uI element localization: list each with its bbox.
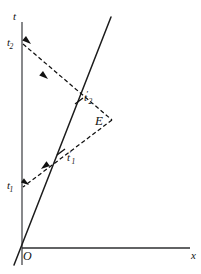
point-label-t1-sub: 1: [10, 185, 14, 194]
space-axis-label: x: [191, 250, 196, 261]
spacetime-diagram: t x O t2 t1 t′2 t′1 E: [0, 0, 201, 274]
point-label-t2: t2: [7, 37, 14, 48]
moving-frame-worldline: [14, 17, 111, 265]
point-label-t2-prime-sub: 2: [89, 97, 93, 106]
outgoing-light-ray: [23, 44, 112, 120]
point-label-t1-prime: t′1: [67, 152, 76, 163]
event-label-E: E: [95, 114, 103, 127]
point-label-t2-sub: 2: [10, 42, 14, 51]
point-label-t2-prime: t′2: [84, 92, 93, 103]
point-label-t1: t1: [7, 180, 14, 191]
origin-label: O: [23, 250, 32, 262]
time-axis-label: t: [13, 11, 16, 22]
arrow-mid-lower-ray-icon: [39, 161, 50, 171]
point-label-t1-prime-sub: 1: [72, 157, 76, 166]
arrow-mid-upper-ray-icon: [39, 71, 50, 81]
diagram-canvas: [0, 0, 201, 274]
